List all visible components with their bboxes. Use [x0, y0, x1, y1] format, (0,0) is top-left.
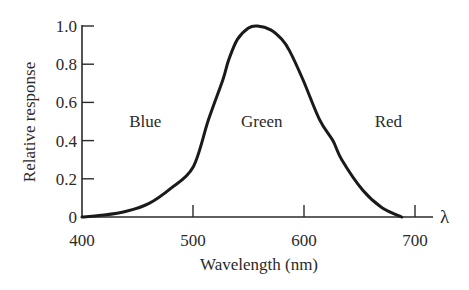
x-tick-label: 400 [69, 231, 95, 250]
y-tick-label: 0 [69, 208, 78, 227]
x-tick-label: 700 [402, 231, 428, 250]
axis-lambda-symbol: λ [440, 206, 450, 227]
x-axis-label: Wavelength (nm) [200, 255, 318, 274]
band-labels: BlueGreenRed [129, 112, 402, 131]
chart-canvas: 00.20.40.60.81.0 400500600700 BlueGreenR… [0, 0, 469, 290]
band-label-red: Red [375, 112, 403, 131]
band-label-blue: Blue [129, 112, 161, 131]
y-tick-label: 0.4 [56, 132, 78, 151]
x-tick-label: 500 [180, 231, 206, 250]
y-tick-label: 0.2 [56, 170, 77, 189]
y-axis-label: Relative response [20, 62, 39, 182]
x-tick-label: 600 [291, 231, 317, 250]
y-tick-label: 1.0 [56, 17, 77, 36]
band-label-green: Green [241, 112, 283, 131]
y-ticks: 00.20.40.60.81.0 [56, 17, 94, 227]
y-tick-label: 0.6 [56, 93, 77, 112]
y-tick-label: 0.8 [56, 55, 77, 74]
spectral-response-chart: 00.20.40.60.81.0 400500600700 BlueGreenR… [0, 0, 469, 290]
